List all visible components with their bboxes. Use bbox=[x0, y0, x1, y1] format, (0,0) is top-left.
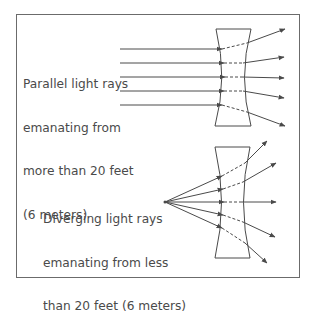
diverging-rays-label: Diverging light rays emanating from less… bbox=[43, 183, 186, 315]
parallel-incoming-rays bbox=[120, 49, 225, 105]
diverging-internal-rays-dashed bbox=[222, 163, 245, 243]
label-line: emanating from less bbox=[43, 256, 186, 271]
label-line: Diverging light rays bbox=[43, 212, 186, 227]
label-line: emanating from bbox=[23, 121, 133, 136]
parallel-outgoing-rays bbox=[242, 29, 285, 126]
label-line: more than 20 feet bbox=[23, 164, 133, 179]
label-line: Parallel light rays bbox=[23, 77, 133, 92]
diverging-outgoing-rays bbox=[241, 141, 276, 263]
label-line: than 20 feet (6 meters) bbox=[43, 299, 186, 314]
